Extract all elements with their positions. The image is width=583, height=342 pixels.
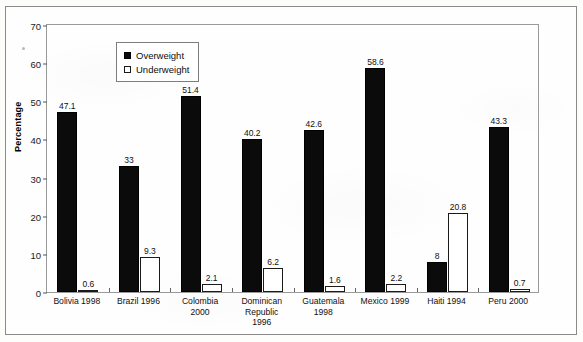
category-label-line: 2000	[169, 307, 231, 318]
bar-value-label: 40.2	[244, 128, 261, 138]
bar-overweight: 43.3	[489, 127, 509, 292]
category-label-line: Bolivia 1998	[46, 296, 108, 307]
legend-item-underweight: Underweight	[124, 62, 189, 76]
bar-group: 43.30.7	[478, 25, 540, 292]
category-label-line: Mexico 1999	[354, 296, 416, 307]
category-label-line: Peru 2000	[477, 296, 539, 307]
y-axis-tick-label: 50	[30, 97, 41, 108]
x-axis-category-label: Brazil 1996	[108, 296, 170, 307]
category-label-line: 1996	[231, 317, 293, 328]
x-axis-tick-mark	[109, 288, 110, 292]
bar-value-label: 33	[124, 155, 133, 165]
category-label-line: 1998	[293, 307, 355, 318]
x-axis-category-label: DominicanRepublic1996	[231, 296, 293, 328]
bar-value-label: 0.6	[82, 279, 94, 289]
bar-group: 820.8	[417, 25, 479, 292]
bar-underweight: 20.8	[448, 213, 468, 292]
x-axis-category-label: Peru 2000	[477, 296, 539, 307]
bar-underweight: 2.2	[386, 284, 406, 292]
hollow-square-icon	[124, 66, 131, 73]
bar-value-label: 43.3	[490, 116, 507, 126]
bar-value-label: 47.1	[59, 101, 76, 111]
bar-value-label: 2.2	[391, 273, 403, 283]
category-label-line: Republic	[231, 307, 293, 318]
legend-item-overweight: Overweight	[124, 48, 189, 62]
bar-overweight: 58.6	[365, 68, 385, 292]
bar-value-label: 20.8	[450, 202, 467, 212]
category-label-line: Dominican	[231, 296, 293, 307]
y-axis-tick-label: 60	[30, 59, 41, 70]
bar-overweight: 40.2	[242, 139, 262, 292]
bar-overweight: 33	[119, 166, 139, 292]
x-axis-tick-mark	[232, 288, 233, 292]
bar-underweight: 0.6	[78, 290, 98, 292]
bar-underweight: 1.6	[325, 286, 345, 292]
y-axis-title: Percentage	[13, 32, 23, 152]
category-label-line: Colombia	[169, 296, 231, 307]
y-axis-tick-label: 20	[30, 211, 41, 222]
legend-label-overweight: Overweight	[136, 50, 184, 61]
x-axis-tick-mark	[170, 288, 171, 292]
category-label-line: Haiti 1994	[416, 296, 478, 307]
x-axis-category-label: Bolivia 1998	[46, 296, 108, 307]
bar-value-label: 58.6	[367, 57, 384, 67]
chart-legend: Overweight Underweight	[116, 42, 199, 82]
x-axis-tick-mark	[294, 288, 295, 292]
bar-group: 47.10.6	[47, 25, 109, 292]
bar-overweight: 42.6	[304, 130, 324, 292]
y-axis-tick-label: 30	[30, 173, 41, 184]
chart-figure: Percentage 01020304050607047.10.6339.351…	[0, 0, 583, 342]
legend-label-underweight: Underweight	[136, 64, 189, 75]
y-axis-tick-label: 10	[30, 249, 41, 260]
x-axis-labels: Bolivia 1998Brazil 1996Colombia2000Domin…	[46, 296, 539, 340]
x-axis-tick-mark	[355, 288, 356, 292]
category-label-line: Brazil 1996	[108, 296, 170, 307]
x-axis-tick-mark	[417, 288, 418, 292]
bar-underweight: 0.7	[510, 289, 530, 292]
bar-value-label: 9.3	[144, 246, 156, 256]
y-axis-tick-label: 70	[30, 21, 41, 32]
bar-overweight: 47.1	[57, 112, 77, 292]
bar-overweight: 51.4	[181, 96, 201, 292]
bar-group: 40.26.2	[232, 25, 294, 292]
bar-value-label: 8	[435, 251, 440, 261]
bar-value-label: 42.6	[306, 119, 323, 129]
bar-underweight: 2.1	[202, 284, 222, 292]
x-axis-category-label: Haiti 1994	[416, 296, 478, 307]
bar-value-label: 2.1	[206, 273, 218, 283]
filled-square-icon	[124, 52, 131, 59]
bar-value-label: 6.2	[267, 257, 279, 267]
bar-value-label: 0.7	[514, 278, 526, 288]
bar-value-label: 51.4	[182, 85, 199, 95]
bar-underweight: 6.2	[263, 268, 283, 292]
category-label-line: Guatemala	[293, 296, 355, 307]
y-axis-tick-label: 0	[36, 288, 41, 299]
x-axis-category-label: Guatemala1998	[293, 296, 355, 317]
bar-group: 58.62.2	[355, 25, 417, 292]
bar-group: 42.61.6	[294, 25, 356, 292]
x-axis-tick-mark	[478, 288, 479, 292]
x-axis-category-label: Colombia2000	[169, 296, 231, 317]
x-axis-category-label: Mexico 1999	[354, 296, 416, 307]
bar-overweight: 8	[427, 262, 447, 293]
bar-underweight: 9.3	[140, 257, 160, 292]
y-axis-tick-label: 40	[30, 135, 41, 146]
bar-value-label: 1.6	[329, 275, 341, 285]
y-axis-tick-mark	[43, 293, 47, 294]
